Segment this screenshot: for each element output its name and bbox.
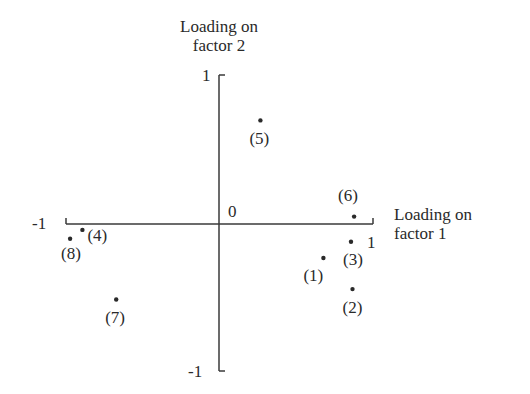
data-point	[114, 297, 118, 301]
x-tick-label-right: 1	[367, 233, 376, 252]
point-label: (8)	[61, 244, 81, 263]
y-axis-label-line2: factor 2	[152, 36, 286, 55]
data-point	[321, 256, 325, 260]
x-tick-label-left: -1	[32, 214, 46, 233]
point-label: (5)	[249, 129, 269, 148]
data-point	[68, 237, 72, 241]
data-point	[349, 240, 353, 244]
point-label: (4)	[87, 226, 107, 245]
data-point	[350, 287, 354, 291]
point-label: (2)	[343, 298, 363, 317]
point-label: (7)	[105, 308, 125, 327]
data-point	[258, 118, 262, 122]
y-tick-label-bottom: -1	[188, 362, 202, 381]
point-label: (1)	[303, 266, 323, 285]
x-axis-label: Loading on factor 1	[394, 205, 472, 243]
y-axis-label: Loading on factor 2	[152, 17, 286, 55]
data-point	[80, 228, 84, 232]
x-axis-label-line2: factor 1	[394, 224, 472, 243]
data-point	[352, 214, 356, 218]
y-axis-label-line1: Loading on	[152, 17, 286, 36]
factor-loading-scatter	[0, 0, 530, 394]
x-axis-label-line1: Loading on	[394, 205, 472, 224]
origin-label: 0	[228, 202, 237, 221]
y-tick-label-top: 1	[202, 66, 211, 85]
point-label: (6)	[338, 186, 358, 205]
point-label: (3)	[343, 250, 363, 269]
